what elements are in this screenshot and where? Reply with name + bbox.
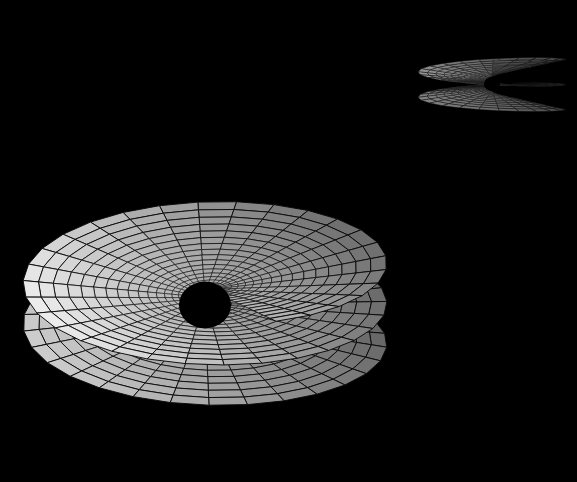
plot-canvas bbox=[0, 0, 577, 482]
surface-render-svg bbox=[0, 0, 577, 482]
singularity-core bbox=[484, 77, 500, 91]
main-riemann-surface bbox=[23, 202, 387, 405]
singularity-core bbox=[179, 282, 231, 329]
